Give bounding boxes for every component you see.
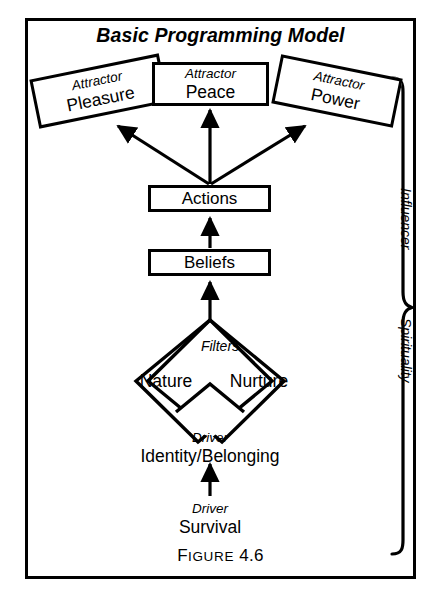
figure-container: Basic Programming Model <box>0 0 440 601</box>
caption-word: IGURE <box>188 549 234 564</box>
caption-number-value: 4.6 <box>239 546 264 565</box>
driver-identity-label: Identity/Belonging <box>105 446 315 466</box>
figure-caption: FIGURE 4.6 <box>25 546 416 566</box>
beliefs-label: Beliefs <box>184 253 235 273</box>
driver-survival: Driver Survival <box>140 501 280 537</box>
driver-survival-kicker: Driver <box>140 501 280 517</box>
nurture-label: Nurture <box>216 371 302 392</box>
caption-lead: F <box>177 546 188 565</box>
attractor-peace-box[interactable]: Attractor Peace <box>152 62 269 106</box>
driver-survival-label: Survival <box>140 517 280 537</box>
actions-label: Actions <box>182 189 238 209</box>
filters-heading: Filters <box>160 338 280 354</box>
actions-box[interactable]: Actions <box>148 185 271 212</box>
attractor-peace-label: Peace <box>186 82 236 102</box>
driver-identity-kicker: Driver <box>105 430 315 446</box>
brace-label-influencer: Influencer <box>398 188 414 249</box>
beliefs-box[interactable]: Beliefs <box>148 249 271 276</box>
brace-label-spirituality: Spirituality <box>398 318 414 383</box>
figure-title: Basic Programming Model <box>25 24 416 47</box>
attractor-peace-kicker: Attractor <box>185 66 236 82</box>
nature-label: Nature <box>126 371 206 392</box>
driver-identity-belonging: Driver Identity/Belonging <box>105 430 315 466</box>
